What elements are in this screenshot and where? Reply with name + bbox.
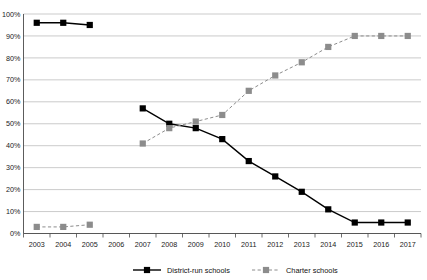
data-point-marker	[352, 219, 358, 225]
data-point-marker	[405, 33, 411, 39]
y-axis-tick-label: 60%	[6, 97, 21, 106]
data-point-marker	[246, 158, 252, 164]
data-point-marker	[405, 219, 411, 225]
x-axis-tick-label: 2005	[82, 240, 98, 249]
legend-group: District-run schoolsCharter schools	[133, 266, 338, 275]
x-axis-tick-label: 2015	[347, 240, 363, 249]
legend-marker-swatch	[263, 267, 269, 273]
y-axis-tick-label: 70%	[6, 75, 21, 84]
data-point-marker	[299, 59, 305, 65]
x-axis-ticks-group	[24, 234, 422, 238]
data-point-marker	[272, 72, 278, 78]
x-axis-tick-label: 2004	[55, 240, 71, 249]
data-point-marker	[272, 173, 278, 179]
data-point-marker	[193, 125, 199, 131]
x-axis-tick-label: 2011	[241, 240, 256, 249]
legend-item[interactable]: Charter schools	[252, 266, 338, 275]
y-axis-tick-label: 90%	[6, 32, 21, 41]
x-axis-tick-label: 2014	[320, 240, 336, 249]
y-axis-tick-label: 10%	[6, 207, 21, 216]
data-point-marker	[87, 22, 93, 28]
y-axis-tick-label: 50%	[6, 119, 21, 128]
data-point-marker	[219, 136, 225, 142]
series-group	[34, 20, 411, 230]
data-point-marker	[352, 33, 358, 39]
data-point-marker	[325, 206, 331, 212]
legend-marker-swatch	[144, 267, 150, 273]
x-axis-tick-label: 2012	[267, 240, 283, 249]
x-axis-tick-label: 2017	[400, 240, 416, 249]
x-axis-tick-label: 2008	[161, 240, 177, 249]
legend-label: District-run schools	[167, 266, 230, 275]
line-chart: 0%10%20%30%40%50%60%70%80%90%100% 200320…	[0, 0, 427, 280]
data-point-marker	[60, 224, 66, 230]
series-charter-schools	[34, 33, 411, 230]
data-point-marker	[219, 112, 225, 118]
y-axis-labels-group: 0%10%20%30%40%50%60%70%80%90%100%	[2, 10, 21, 239]
x-axis-labels-group: 2003200420052006200720082009201020112012…	[29, 240, 416, 249]
y-axis-tick-label: 40%	[6, 141, 21, 150]
data-point-marker	[60, 20, 66, 26]
x-axis-tick-label: 2009	[188, 240, 204, 249]
series-line	[143, 36, 408, 144]
series-line	[143, 108, 408, 222]
data-point-marker	[140, 105, 146, 111]
data-point-marker	[325, 44, 331, 50]
data-point-marker	[378, 33, 384, 39]
x-axis-tick-label: 2006	[108, 240, 124, 249]
y-axis-tick-label: 100%	[2, 10, 21, 19]
y-axis-tick-label: 30%	[6, 163, 21, 172]
y-axis-tick-label: 80%	[6, 54, 21, 63]
data-point-marker	[193, 118, 199, 124]
data-point-marker	[34, 20, 40, 26]
data-point-marker	[299, 189, 305, 195]
data-point-marker	[140, 140, 146, 146]
x-axis-tick-label: 2010	[214, 240, 230, 249]
y-axis-tick-label: 20%	[6, 185, 21, 194]
data-point-marker	[87, 222, 93, 228]
y-axis-tick-label: 0%	[10, 229, 21, 238]
legend-label: Charter schools	[286, 266, 338, 275]
data-point-marker	[378, 219, 384, 225]
data-point-marker	[166, 125, 172, 131]
gridlines-group	[24, 14, 422, 234]
x-axis-tick-label: 2016	[373, 240, 389, 249]
legend-item[interactable]: District-run schools	[133, 266, 230, 275]
x-axis-tick-label: 2003	[29, 240, 45, 249]
series-district-run-schools	[34, 20, 411, 226]
x-axis-tick-label: 2013	[294, 240, 310, 249]
chart-canvas: 0%10%20%30%40%50%60%70%80%90%100% 200320…	[0, 0, 427, 280]
x-axis-tick-label: 2007	[135, 240, 151, 249]
data-point-marker	[34, 224, 40, 230]
data-point-marker	[246, 88, 252, 94]
